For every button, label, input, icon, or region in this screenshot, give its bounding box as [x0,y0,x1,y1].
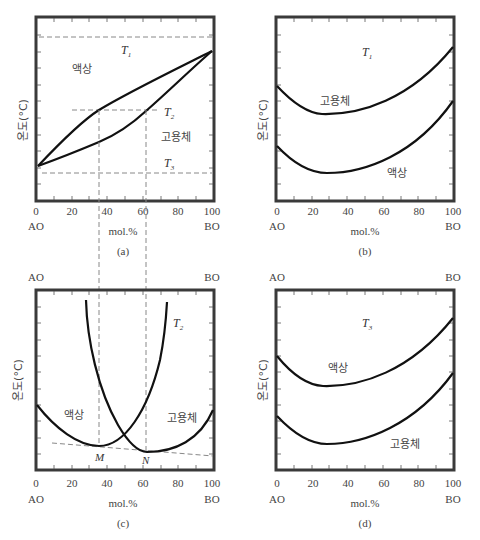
x-left-end: AO [28,493,44,505]
x-axis-label: mol.% [350,225,379,237]
svg-text:0: 0 [274,477,280,489]
caption-d: (d) [359,517,372,530]
svg-text:0: 0 [33,205,39,217]
label-lower: 고용체 [390,438,420,451]
label-T3: T3 [362,316,373,332]
svg-text:60: 60 [379,205,391,217]
label-liquid: 액상 [72,63,92,76]
svg-text:80: 80 [173,477,185,489]
label-upper: 액상 [328,362,348,375]
liquidus-curve [38,51,212,166]
svg-text:20: 20 [308,477,320,489]
caption-c: (c) [117,517,130,530]
svg-text:80: 80 [414,477,426,489]
solid-solution-curve [277,373,453,444]
x-right-end: BO [445,220,460,232]
liquid-curve [37,302,167,446]
x-right-end-top: BO [445,271,460,283]
svg-text:20: 20 [67,205,79,217]
panel-c-frame [36,290,214,470]
svg-text:20: 20 [67,477,79,489]
x-left-end: AO [269,493,285,505]
svg-text:100: 100 [445,205,462,217]
panel-d: AO BO T3 액상 고용체 온도(°C) 0 20 40 60 80 100… [257,271,462,530]
panel-c: AO BO T2 액상 고용체 M N 온도(°C) 0 20 40 60 80… [12,271,221,530]
svg-text:60: 60 [379,477,391,489]
label-T1: T1 [121,43,131,59]
svg-text:80: 80 [414,205,426,217]
label-solid: 고용체 [161,131,191,144]
svg-text:100: 100 [204,205,221,217]
panel-b: T1 고용체 액상 온도(°C) 0 20 40 60 80 100 AO BO… [257,17,462,258]
point-M: M [94,451,105,463]
label-T3: T3 [164,156,175,172]
svg-text:0: 0 [33,477,39,489]
x-right-end: BO [204,220,219,232]
svg-text:0: 0 [274,205,280,217]
liquid-curve [277,101,453,173]
label-lower: 액상 [387,167,407,180]
x-right-end: BO [204,493,219,505]
label-T2: T2 [173,316,184,332]
svg-text:40: 40 [343,205,355,217]
svg-text:60: 60 [138,477,150,489]
x-tick-labels: 0 20 40 60 80 100 [33,205,221,217]
x-left-end: AO [28,220,44,232]
caption-a: (a) [117,245,130,258]
x-left-end: AO [269,220,285,232]
svg-text:60: 60 [138,205,150,217]
x-left-end-top: AO [28,271,44,283]
y-axis-label: 온도(°C) [257,99,270,141]
label-T2: T2 [164,105,175,121]
x-right-end-top: BO [204,271,219,283]
svg-text:40: 40 [102,477,114,489]
x-tick-labels: 0 20 40 60 80 100 [33,477,221,489]
x-axis-label: mol.% [108,225,137,237]
caption-b: (b) [359,245,372,258]
label-solid: 고용체 [167,412,197,425]
svg-text:40: 40 [102,205,114,217]
x-tick-labels: 0 20 40 60 80 100 [274,205,462,217]
figure-canvas: 액상 고용체 T1 T2 T3 온도(°C) 0 20 40 60 80 100… [0,0,480,540]
svg-text:40: 40 [343,477,355,489]
y-axis-label: 온도(°C) [17,99,30,141]
label-liquid: 액상 [64,409,84,422]
label-T1: T1 [362,45,372,61]
x-right-end: BO [445,493,460,505]
svg-text:80: 80 [173,205,185,217]
y-axis-label: 온도(°C) [257,359,270,401]
svg-text:100: 100 [204,477,221,489]
x-axis-label: mol.% [108,497,137,509]
point-N: N [141,454,150,466]
y-axis-label: 온도(°C) [12,359,25,401]
label-upper: 고용체 [320,95,350,108]
solid-solution-curve [86,300,213,452]
x-left-end-top: AO [269,271,285,283]
svg-text:100: 100 [445,477,462,489]
panel-a: 액상 고용체 T1 T2 T3 온도(°C) 0 20 40 60 80 100… [17,17,221,258]
x-axis-label: mol.% [350,497,379,509]
x-tick-labels: 0 20 40 60 80 100 [274,477,462,489]
solidus-curve [38,51,212,166]
svg-text:20: 20 [308,205,320,217]
